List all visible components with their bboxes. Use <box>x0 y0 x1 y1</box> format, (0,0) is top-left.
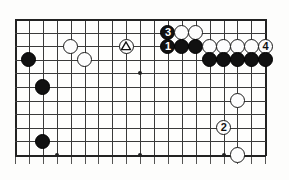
grid-line-horizontal <box>15 87 266 88</box>
stone-black <box>35 79 50 94</box>
board-edge-tick <box>168 157 169 164</box>
board-edge-tick <box>196 157 197 164</box>
grid-line-horizontal <box>15 33 266 34</box>
board-edge-tick <box>15 157 16 164</box>
board-edge-tick <box>112 157 113 164</box>
marked-stone-triangle <box>119 39 134 54</box>
stone-black <box>230 52 245 67</box>
board-edge-tick <box>29 157 30 164</box>
grid-line-horizontal <box>15 101 266 102</box>
stone-white <box>230 93 245 108</box>
move-stone-2: 2 <box>216 120 231 135</box>
move-number: 3 <box>161 26 174 39</box>
grid-line-horizontal <box>15 141 266 142</box>
stone-black <box>188 39 203 54</box>
move-number: 1 <box>161 40 174 53</box>
stone-black <box>174 39 189 54</box>
stone-black <box>21 52 36 67</box>
stone-black <box>202 52 217 67</box>
stone-white <box>230 147 245 162</box>
board-edge-tick <box>210 157 211 164</box>
board-edge-tick <box>98 157 99 164</box>
stone-black <box>35 134 50 149</box>
stone-white <box>63 39 78 54</box>
board-edge-tick <box>140 157 141 164</box>
board-edge-tick <box>251 157 252 164</box>
stone-black <box>244 52 259 67</box>
move-number: 2 <box>217 121 230 134</box>
star-point <box>138 71 142 75</box>
go-board: 3142 <box>15 19 267 157</box>
grid-line-horizontal <box>15 114 266 115</box>
stone-white <box>188 25 203 40</box>
stone-white <box>174 25 189 40</box>
stone-white <box>77 52 92 67</box>
stone-black <box>216 52 231 67</box>
grid-line-horizontal <box>15 19 266 21</box>
triangle-icon <box>121 41 132 51</box>
board-edge-tick <box>85 157 86 164</box>
board-edge-tick <box>224 157 225 164</box>
board-edge-tick <box>182 157 183 164</box>
board-edge-tick <box>126 157 127 164</box>
go-diagram-figure: 3142 <box>0 0 289 180</box>
board-edge-tick <box>57 157 58 164</box>
move-number: 4 <box>259 40 272 53</box>
board-edge-tick <box>43 157 44 164</box>
board-edge-tick <box>265 157 266 164</box>
board-edge-tick <box>71 157 72 164</box>
board-edge-tick <box>154 157 155 164</box>
